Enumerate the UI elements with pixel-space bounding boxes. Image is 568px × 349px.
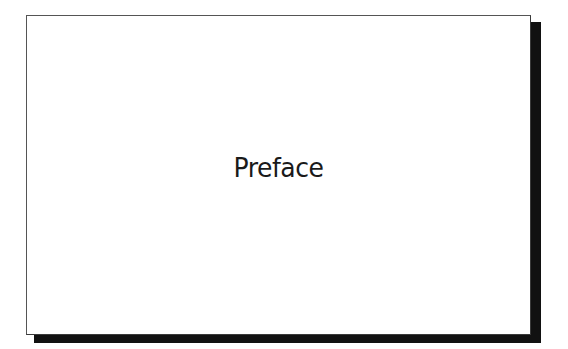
page-frame: Preface (26, 15, 531, 335)
page-title: Preface (45, 154, 513, 181)
